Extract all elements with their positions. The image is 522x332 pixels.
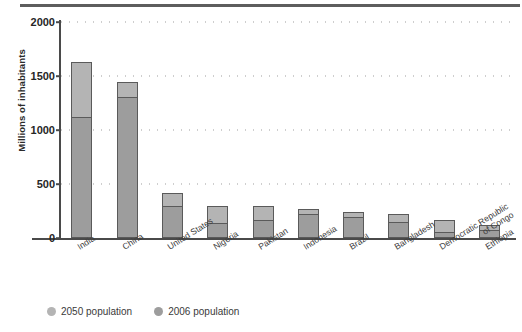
- y-tick-mark: [56, 237, 61, 239]
- legend-item: 2006 population: [154, 306, 239, 317]
- bar-segment-2006: [117, 97, 138, 238]
- bar-united-states: [162, 193, 183, 238]
- y-tick-label: 0: [49, 232, 55, 244]
- y-gridline: [61, 76, 514, 77]
- y-tick-label: 1500: [31, 70, 55, 82]
- bar-india: [71, 62, 92, 238]
- y-gridline: [61, 22, 514, 23]
- y-tick-mark: [56, 183, 61, 185]
- legend-label: 2006 population: [168, 306, 239, 317]
- bar-segment-2006: [71, 117, 92, 238]
- y-axis-title: Millions of inhabitants: [16, 36, 27, 166]
- chart-legend: 2050 population2006 population: [47, 306, 239, 317]
- population-bar-chart: Millions of inhabitants 0500100015002000…: [0, 0, 522, 332]
- legend-label: 2050 population: [61, 306, 132, 317]
- y-tick-mark: [56, 21, 61, 23]
- y-tick-mark: [56, 75, 61, 77]
- top-rule-divider: [20, 4, 520, 7]
- y-tick-label: 500: [37, 178, 55, 190]
- y-tick-mark: [56, 129, 61, 131]
- plot-area: 0500100015002000: [61, 22, 514, 238]
- circle-marker-icon: [47, 307, 56, 316]
- bar-china: [117, 82, 138, 238]
- y-tick-label: 2000: [31, 16, 55, 28]
- y-tick-label: 1000: [31, 124, 55, 136]
- legend-item: 2050 population: [47, 306, 132, 317]
- circle-marker-icon: [154, 307, 163, 316]
